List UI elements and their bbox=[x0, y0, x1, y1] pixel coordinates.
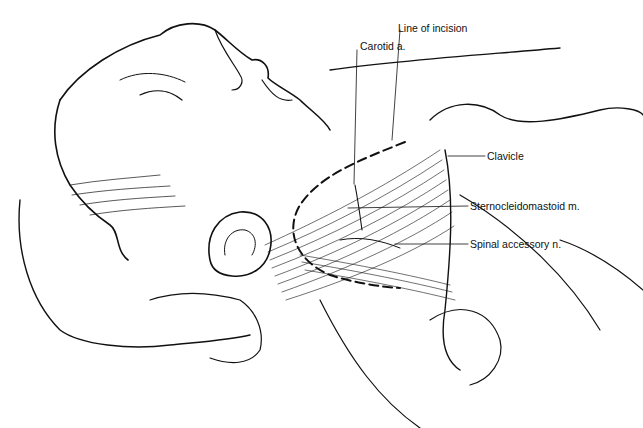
pillow bbox=[19, 200, 250, 347]
label-clavicle: Clavicle bbox=[487, 150, 524, 162]
ear-inner bbox=[224, 230, 255, 255]
label-spinal-accessory-nerve: Spinal accessory n. bbox=[470, 238, 561, 250]
clavicle-bone bbox=[443, 150, 460, 370]
leader-lines bbox=[348, 30, 485, 244]
face-outline bbox=[60, 24, 330, 130]
eyebrow bbox=[120, 73, 185, 82]
label-sternocleidomastoid: Sternocleidomastoid m. bbox=[470, 200, 580, 212]
chest-contour bbox=[460, 195, 600, 330]
arm-contour bbox=[560, 240, 643, 290]
neck-drawing bbox=[0, 0, 643, 428]
label-line-of-incision: Line of incision bbox=[398, 22, 467, 34]
hand bbox=[150, 293, 261, 362]
label-carotid-artery: Carotid a. bbox=[360, 40, 406, 52]
torso-contour bbox=[320, 300, 420, 428]
sternum bbox=[430, 310, 501, 385]
forehead-outline bbox=[55, 100, 128, 260]
anatomical-illustration: Line of incision Carotid a. Clavicle Ste… bbox=[0, 0, 643, 428]
lower-muscle-fibers bbox=[300, 255, 455, 300]
ear bbox=[209, 212, 271, 276]
hair-strokes bbox=[70, 175, 185, 215]
nose bbox=[215, 30, 242, 90]
shoulder-upper bbox=[430, 104, 643, 121]
mouth bbox=[262, 80, 292, 100]
eye-closed bbox=[140, 91, 182, 100]
